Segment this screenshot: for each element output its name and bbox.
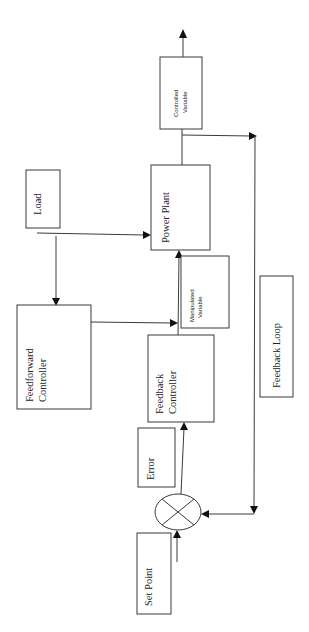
manipulated-variable-block: Manipulated Variable: [181, 256, 229, 328]
junction-to-controller-arrowhead-icon: [180, 422, 188, 430]
junction-right-arrowhead-icon: [201, 510, 209, 518]
feedforward-to-mv-arrowhead-icon: [170, 319, 178, 327]
feedforward-to-mv-wire: [91, 322, 172, 323]
summing-junction-icon: [155, 494, 201, 530]
feedback-controller-label-line1: Feedback: [154, 373, 165, 414]
junction-to-controller-wire: [181, 428, 184, 494]
load-block: Load: [26, 170, 60, 228]
error-label: Error: [145, 457, 156, 480]
manipulated-variable-label-line1: Manipulated: [189, 289, 195, 322]
output-arrowhead-icon: [179, 29, 187, 38]
control-system-diagram: Controlled Variable Power Plant Load Man…: [0, 0, 309, 632]
feedback-down-arrowhead-icon: [250, 506, 258, 514]
load-to-plant-arrowhead-icon: [143, 231, 151, 239]
load-to-plant-wire: [37, 233, 145, 235]
set-point-block: Set Point: [137, 533, 171, 614]
feedback-loop-label: Feedback Loop: [271, 323, 282, 388]
error-block: Error: [138, 428, 175, 487]
feedforward-controller-label-line1: Feedforward: [24, 348, 35, 402]
feedforward-controller-label-line2: Controller: [37, 358, 48, 402]
feedback-controller-label-line2: Controller: [167, 370, 178, 414]
feedback-branch-arrowhead-icon: [249, 132, 257, 140]
feedback-branch-wire: [182, 135, 252, 136]
power-plant-block: Power Plant: [151, 165, 210, 250]
feedback-controller-block: Feedback Controller: [148, 335, 214, 422]
setpoint-to-junction-arrowhead-icon: [173, 530, 181, 538]
load-label: Load: [32, 193, 43, 215]
controlled-variable-label-line1: Controlled: [173, 90, 179, 117]
controlled-variable-block: Controlled Variable: [160, 57, 202, 129]
feedback-loop-block: Feedback Loop: [260, 276, 293, 397]
feedback-return-wire: [254, 136, 255, 508]
set-point-label: Set Point: [143, 568, 154, 606]
manipulated-variable-label-line2: Variable: [197, 296, 203, 318]
feedforward-controller-block: Feedforward Controller: [17, 305, 91, 409]
power-plant-label: Power Plant: [160, 192, 171, 243]
controller-to-plant-wire: [178, 256, 179, 335]
controlled-variable-label-line2: Variable: [182, 91, 188, 113]
